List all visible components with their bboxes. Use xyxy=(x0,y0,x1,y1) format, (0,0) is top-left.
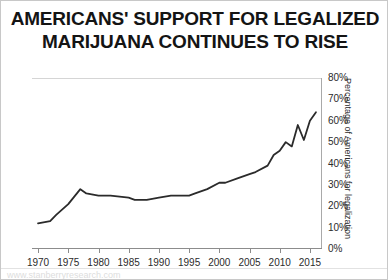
chart-title-line-1: AMERICANS' SUPPORT FOR LEGALIZED xyxy=(1,7,388,30)
source-watermark: www.stanberryresearch.com xyxy=(7,270,121,280)
y-axis-title: Percentage of Americans for legalization xyxy=(340,78,356,249)
x-axis-tick-mark xyxy=(219,249,220,253)
x-axis-tick-marks xyxy=(32,249,322,254)
x-axis-tick-mark xyxy=(159,249,160,253)
footer-divider xyxy=(1,268,388,269)
chart-title: AMERICANS' SUPPORT FOR LEGALIZED MARIJUA… xyxy=(1,7,388,53)
x-axis-tick-mark xyxy=(280,249,281,253)
x-axis-tick-mark xyxy=(310,249,311,253)
x-axis-tick-mark xyxy=(68,249,69,253)
support-line-series xyxy=(32,78,322,249)
chart-figure: AMERICANS' SUPPORT FOR LEGALIZED MARIJUA… xyxy=(0,0,388,280)
chart-title-line-2: MARIJUANA CONTINUES TO RISE xyxy=(1,30,388,53)
x-axis-tick-mark xyxy=(38,249,39,253)
x-axis-tick-mark xyxy=(189,249,190,253)
x-axis-tick-mark xyxy=(129,249,130,253)
x-axis-tick-mark xyxy=(250,249,251,253)
plot-area xyxy=(32,78,322,249)
x-axis-tick-mark xyxy=(99,249,100,253)
x-axis-tick-label: 2015 xyxy=(290,257,330,268)
